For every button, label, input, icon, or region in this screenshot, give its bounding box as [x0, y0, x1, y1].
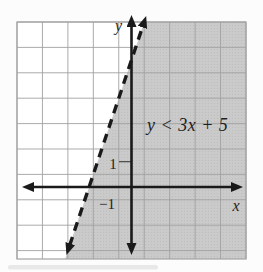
x-axis-label: x — [231, 197, 239, 214]
inequality-graph-figure: y x 1 −1 y < 3x + 5 — [0, 0, 263, 272]
y-tick-label-1: 1 — [109, 156, 117, 172]
inequality-label: y < 3x + 5 — [145, 115, 228, 135]
textbook-graph-page: y x 1 −1 y < 3x + 5 — [0, 0, 263, 272]
x-tick-label-neg1: −1 — [99, 196, 115, 212]
y-axis-label: y — [113, 17, 123, 35]
scan-artifact — [8, 265, 158, 270]
